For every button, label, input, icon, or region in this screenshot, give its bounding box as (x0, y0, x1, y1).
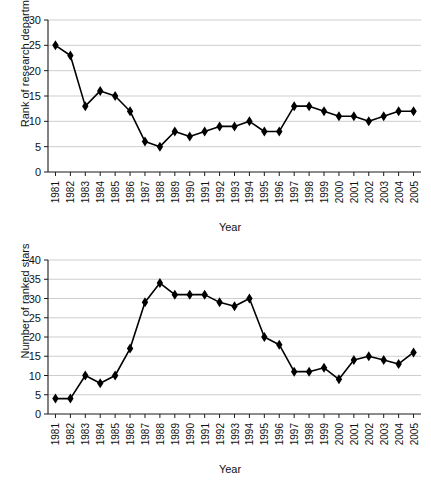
x-tick-label: 1996 (274, 181, 285, 204)
plot-area-stars: Number of ranked stars 05101520253035401… (0, 240, 431, 480)
x-tick-label: 1994 (244, 423, 255, 446)
chart-svg-stars: 0510152025303540198119821983198419851986… (0, 240, 431, 480)
data-point-marker (82, 101, 88, 111)
x-tick-label: 1996 (274, 423, 285, 446)
x-tick-label: 1983 (80, 181, 91, 204)
data-point-marker (157, 142, 163, 152)
x-tick-label: 2005 (409, 181, 420, 204)
series-line (55, 283, 413, 399)
x-tick-label: 1992 (215, 181, 226, 204)
data-point-marker (351, 111, 357, 121)
x-tick-label: 1998 (304, 423, 315, 446)
chart-number-of-ranked-stars: Number of ranked stars 05101520253035401… (0, 240, 431, 480)
data-point-marker (336, 111, 342, 121)
x-tick-label: 1990 (185, 423, 196, 446)
x-tick-label: 2003 (379, 181, 390, 204)
y-tick-label: 0 (35, 166, 41, 178)
data-point-marker (261, 126, 267, 136)
data-point-marker (381, 355, 387, 365)
x-tick-label: 1986 (125, 181, 136, 204)
x-axis-label-stars: Year (150, 463, 310, 475)
x-tick-label: 1993 (230, 423, 241, 446)
data-point-marker (187, 132, 193, 142)
x-tick-label: 1988 (155, 423, 166, 446)
data-point-marker (321, 363, 327, 373)
data-point-marker (395, 359, 401, 369)
x-tick-label: 1984 (95, 423, 106, 446)
x-tick-label: 1993 (230, 181, 241, 204)
x-tick-label: 2000 (334, 181, 345, 204)
plot-area-rank: Rank of research department 051015202530… (0, 0, 431, 240)
data-point-marker (201, 126, 207, 136)
x-tick-label: 2001 (349, 181, 360, 204)
data-point-marker (261, 332, 267, 342)
data-point-marker (172, 126, 178, 136)
x-tick-label: 1992 (215, 423, 226, 446)
x-tick-label: 1990 (185, 181, 196, 204)
x-tick-label: 2003 (379, 423, 390, 446)
data-point-marker (231, 301, 237, 311)
data-point-marker (246, 116, 252, 126)
chart-rank-of-research-department: Rank of research department 051015202530… (0, 0, 431, 240)
x-tick-label: 2000 (334, 423, 345, 446)
x-tick-label: 1988 (155, 181, 166, 204)
x-tick-label: 2004 (394, 423, 405, 446)
y-tick-label: 5 (35, 389, 41, 401)
x-tick-label: 2002 (364, 423, 375, 446)
x-axis-label-rank: Year (150, 221, 310, 233)
data-point-marker (395, 106, 401, 116)
x-tick-label: 1987 (140, 181, 151, 204)
x-tick-label: 2001 (349, 423, 360, 446)
x-tick-label: 1991 (200, 181, 211, 204)
x-tick-label: 1983 (80, 423, 91, 446)
x-tick-label: 1987 (140, 423, 151, 446)
data-point-marker (366, 116, 372, 126)
data-point-marker (306, 101, 312, 111)
x-tick-label: 1985 (110, 181, 121, 204)
data-point-marker (216, 121, 222, 131)
x-tick-label: 1984 (95, 181, 106, 204)
x-tick-label: 1989 (170, 181, 181, 204)
data-point-marker (97, 378, 103, 388)
data-point-marker (216, 297, 222, 307)
x-tick-label: 1995 (259, 181, 270, 204)
y-tick-label: 5 (35, 141, 41, 153)
x-tick-label: 1994 (244, 181, 255, 204)
data-point-marker (321, 106, 327, 116)
x-tick-label: 2005 (409, 423, 420, 446)
y-tick-label: 0 (35, 408, 41, 420)
data-point-marker (410, 347, 416, 357)
data-point-marker (52, 394, 58, 404)
data-point-marker (112, 91, 118, 101)
x-tick-label: 1981 (50, 423, 61, 446)
data-point-marker (366, 351, 372, 361)
data-point-marker (97, 86, 103, 96)
x-tick-label: 1985 (110, 423, 121, 446)
data-point-marker (410, 106, 416, 116)
x-tick-label: 1989 (170, 423, 181, 446)
data-point-marker (231, 121, 237, 131)
x-tick-label: 1982 (65, 181, 76, 204)
data-point-marker (172, 290, 178, 300)
x-tick-label: 1981 (50, 181, 61, 204)
x-tick-label: 1998 (304, 181, 315, 204)
data-point-marker (67, 50, 73, 60)
y-axis-label-stars: Number of ranked stars (19, 216, 31, 386)
data-point-marker (187, 290, 193, 300)
chart-svg-rank: 0510152025301981198219831984198519861987… (0, 0, 431, 240)
x-tick-label: 2004 (394, 181, 405, 204)
data-point-marker (246, 294, 252, 304)
data-point-marker (381, 111, 387, 121)
x-tick-label: 1997 (289, 181, 300, 204)
y-axis-label-rank: Rank of research department (19, 0, 31, 141)
data-point-marker (201, 290, 207, 300)
x-tick-label: 1986 (125, 423, 136, 446)
x-tick-label: 1999 (319, 181, 330, 204)
x-tick-label: 1991 (200, 423, 211, 446)
x-tick-label: 1982 (65, 423, 76, 446)
x-tick-label: 1995 (259, 423, 270, 446)
x-tick-label: 1997 (289, 423, 300, 446)
x-tick-label: 1999 (319, 423, 330, 446)
x-tick-label: 2002 (364, 181, 375, 204)
data-point-marker (52, 40, 58, 50)
